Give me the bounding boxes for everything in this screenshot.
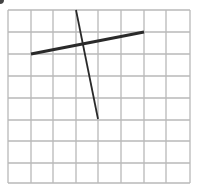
- grid: [8, 10, 190, 183]
- steep-segment: [76, 10, 98, 119]
- line-segments: [31, 10, 144, 119]
- grid-diagram: [0, 0, 197, 190]
- near-horizontal-segment: [31, 32, 144, 54]
